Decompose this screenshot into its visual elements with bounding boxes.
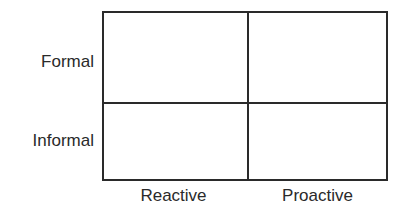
column-label-proactive: Proactive — [246, 186, 389, 206]
column-label-reactive: Reactive — [102, 186, 245, 206]
matrix-grid — [102, 11, 388, 181]
cell-informal-proactive — [249, 104, 386, 179]
row-label-informal: Informal — [33, 131, 94, 151]
vertical-divider — [247, 13, 249, 179]
cell-formal-proactive — [249, 13, 386, 102]
cell-informal-reactive — [104, 104, 247, 179]
horizontal-divider — [104, 102, 386, 104]
cell-formal-reactive — [104, 13, 247, 102]
row-label-formal: Formal — [41, 52, 94, 72]
